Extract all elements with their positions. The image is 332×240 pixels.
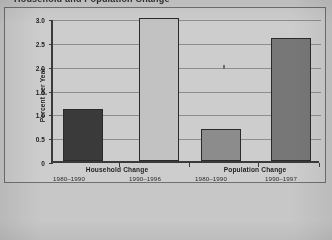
y-label-1-0: 1.0 [19, 112, 45, 119]
period-label-population-2: 1990–1997 [243, 175, 319, 182]
y-tick-2-5 [49, 44, 53, 45]
scanned-figure: Household and Population Change Percent … [0, 0, 332, 188]
cut-off-title-strip: Household and Population Change [0, 0, 332, 7]
bar-household-1980-1990 [63, 109, 103, 161]
y-tick-1-5 [49, 92, 53, 93]
y-label-2-5: 2.5 [19, 40, 45, 47]
y-tick-2-0 [49, 68, 53, 69]
period-label-household-1: 1980–1990 [31, 175, 107, 182]
plot-area [51, 20, 319, 163]
period-label-household-2: 1990–1996 [107, 175, 183, 182]
gridline-3-0 [53, 20, 321, 21]
y-tick-0-5 [49, 139, 53, 140]
y-label-2-0: 2.0 [19, 64, 45, 71]
figure-title: Household and Population Change [14, 0, 170, 4]
group-title-household: Household Change [47, 166, 187, 173]
y-tick-1-0 [49, 115, 53, 116]
figure-frame: Percent per Year [4, 7, 326, 183]
group-title-population: Population Change [185, 166, 325, 173]
y-label-1-5: 1.5 [19, 88, 45, 95]
y-label-0: 0 [19, 160, 45, 167]
y-label-3-0: 3.0 [19, 17, 45, 24]
y-tick-3-0 [49, 20, 53, 21]
period-label-population-1: 1980–1990 [173, 175, 249, 182]
bar-household-1990-1996 [139, 18, 179, 161]
bar-population-1980-1990 [201, 129, 241, 161]
y-label-0-5: 0.5 [19, 136, 45, 143]
bar-population-1990-1997 [271, 38, 311, 161]
y-tick-0 [49, 163, 53, 164]
scan-speck [223, 65, 225, 69]
